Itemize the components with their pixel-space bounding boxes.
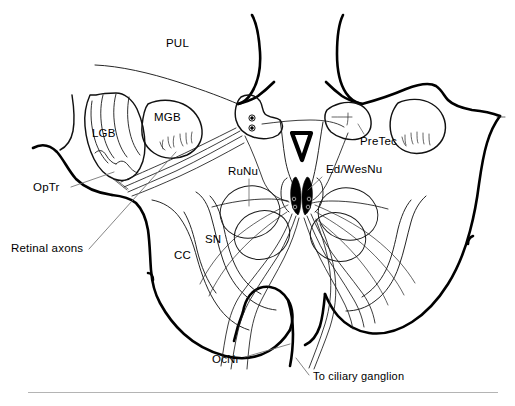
right-tectum-lateral-edge: [362, 84, 500, 116]
right-crus-cerebri-outline: [325, 116, 500, 334]
leader-pretec: [358, 124, 364, 134]
ew-terminal-dot-right-1: [308, 198, 310, 200]
left-thalamic-lateral-edge: [60, 95, 74, 150]
label-lgb: LGB: [92, 128, 116, 140]
ocnr-rootlet-left-2: [231, 216, 296, 369]
label-mgb: MGB: [154, 112, 181, 124]
retinal-fiber-2: [124, 131, 240, 187]
lgb-lower-fold: [116, 161, 138, 173]
retinal-terminal-dot-1: [251, 117, 254, 120]
figure-root: PUL MGB LGB OpTr Retinal axons RuNu SN C…: [0, 0, 515, 406]
left-crus-cerebri-outline: [112, 195, 290, 358]
red-nucleus-right: [313, 182, 383, 245]
leader-ciliary-ganglion: [296, 358, 309, 375]
label-pretec: PreTec: [360, 136, 397, 148]
mgb-hatching: [160, 132, 192, 150]
substantia-nigra-left-band: [196, 192, 276, 310]
label-optr: OpTr: [33, 182, 60, 194]
substantia-nigra-right-band: [346, 196, 426, 311]
retinal-fiber-1: [121, 128, 236, 182]
tectal-midline-notch-right: [326, 82, 362, 104]
label-ocnr: OcNr: [212, 354, 240, 366]
ocnr-rootlet-right-3: [304, 218, 353, 329]
right-geniculate-hatching: [402, 132, 430, 146]
lgb-lamina-3: [114, 94, 127, 157]
leader-retinal-axons: [89, 152, 176, 249]
pretectal-commissure: [262, 120, 344, 127]
leader-ocnr: [245, 344, 290, 357]
periaqueductal-gray-right: [311, 122, 323, 186]
midbrain-diagram: [0, 0, 515, 406]
left-superior-colliculus-outline: [238, 15, 260, 104]
ew-terminal-dot-left-2: [294, 206, 296, 208]
label-pul: PUL: [166, 38, 189, 50]
cerebral-aqueduct: [292, 133, 311, 160]
interpeduncular-fossa-right: [305, 294, 325, 345]
ew-left-capsule: [281, 178, 289, 212]
left-peduncle-inner-contour: [152, 200, 249, 330]
edinger-westphal-group: [281, 177, 323, 215]
ew-terminal-dot-left-1: [293, 198, 295, 200]
bottom-divider-rule: [28, 392, 498, 393]
ew-terminal-dot-right-2: [307, 206, 309, 208]
right-geniculate-contour: [390, 99, 445, 153]
interpeduncular-fossa-floor: [234, 312, 243, 341]
label-sn: SN: [205, 234, 221, 246]
right-superior-colliculus-outline: [337, 15, 362, 104]
label-cc: CC: [174, 250, 191, 262]
label-ed-wesnu: Ed/WesNu: [326, 164, 382, 176]
ocnr-rootlet-left-3: [247, 218, 299, 369]
brainstem-outline-group: [33, 15, 500, 366]
lgb-lamina-4: [128, 97, 140, 155]
retinal-terminal-dot-2: [251, 127, 254, 130]
label-to-ciliary-ganglion: To ciliary ganglion: [313, 371, 404, 382]
label-runu: RuNu: [228, 166, 258, 178]
pulvinar-superior-border: [95, 65, 238, 104]
label-retinal-axons: Retinal axons: [11, 243, 83, 255]
leader-lines-group: [71, 124, 364, 375]
cerebral-aqueduct-group: [280, 120, 323, 186]
